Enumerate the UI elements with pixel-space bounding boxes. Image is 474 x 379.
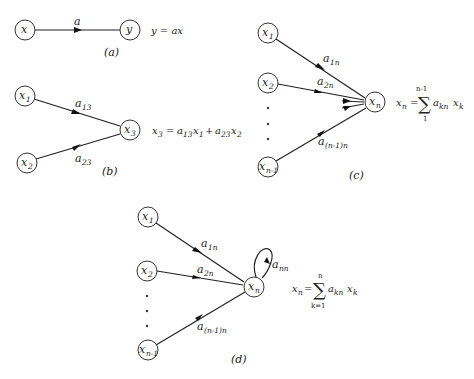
svg-text:13: 13 xyxy=(183,130,193,139)
edge-arrow-icon xyxy=(314,89,323,93)
svg-text:∑: ∑ xyxy=(418,93,431,114)
svg-text:n: n xyxy=(255,286,260,295)
svg-text:3: 3 xyxy=(131,129,136,138)
svg-text:a: a xyxy=(323,52,330,65)
svg-text:n: n xyxy=(376,101,381,110)
node-y: y xyxy=(120,20,140,40)
svg-text:(n-1)n: (n-1)n xyxy=(204,326,227,335)
node-xn-1: x n-1 xyxy=(258,157,278,177)
equation-c: x n = n-1 ∑ 1 a kn x k xyxy=(396,85,464,123)
svg-text:∑: ∑ xyxy=(313,279,326,300)
edge-label-a2n: a 2n xyxy=(197,263,214,278)
svg-text:n-1: n-1 xyxy=(416,85,427,93)
svg-text:a: a xyxy=(75,152,82,165)
node-x: x xyxy=(15,20,35,40)
caption-d: (d) xyxy=(231,353,247,366)
svg-text:x: x xyxy=(139,343,146,356)
equation-d: x n = n ∑ k=1 a kn x k xyxy=(292,272,358,310)
svg-text:13: 13 xyxy=(82,103,92,112)
svg-text:x: x xyxy=(142,210,149,223)
svg-text:2: 2 xyxy=(147,270,153,279)
edge-label-an1n: a (n-1)n xyxy=(197,320,227,335)
equation-b: x 3 = a 13 x 1 + a 23 x 2 xyxy=(152,125,242,139)
svg-text:2n: 2n xyxy=(203,269,214,278)
node-x3: x 3 xyxy=(120,120,140,140)
svg-text:k: k xyxy=(353,288,358,297)
node-xn: x n xyxy=(244,277,264,297)
ellipsis-dots xyxy=(146,295,148,327)
ellipsis-dots xyxy=(267,107,269,140)
svg-text:a: a xyxy=(75,97,82,110)
svg-text:1: 1 xyxy=(423,115,427,123)
node-x1: x 1 xyxy=(138,207,158,227)
svg-text:2: 2 xyxy=(27,162,33,171)
edge-label-a13: a 13 xyxy=(75,97,92,112)
svg-text:n-1: n-1 xyxy=(266,166,278,175)
svg-text:a: a xyxy=(197,263,204,276)
svg-text:1: 1 xyxy=(199,130,204,139)
svg-text:=: = xyxy=(304,283,312,294)
svg-text:1: 1 xyxy=(149,216,154,225)
node-xn: x n xyxy=(365,92,385,112)
svg-text:n: n xyxy=(402,102,407,111)
signal-flow-figure: a x y y = ax (a) a 13 a 23 x 1 xyxy=(0,0,474,379)
svg-text:3: 3 xyxy=(158,130,163,139)
edge-label-ann: a nn xyxy=(272,258,289,273)
node-x2: x 2 xyxy=(258,73,278,93)
svg-text:a: a xyxy=(272,258,279,271)
edge-label-a: a xyxy=(74,15,81,28)
svg-text:n: n xyxy=(298,288,303,297)
svg-text:x: x xyxy=(21,156,28,169)
edge-label-a2n: a 2n xyxy=(317,75,334,90)
svg-text:23: 23 xyxy=(81,158,92,167)
svg-text:2n: 2n xyxy=(323,81,334,90)
svg-text:x: x xyxy=(262,26,269,39)
edge-label-an1n: a (n-1)n xyxy=(318,135,348,150)
svg-text:n-1: n-1 xyxy=(146,349,158,358)
edge-arrow-icon xyxy=(343,98,351,104)
node-x1: x 1 xyxy=(258,23,278,43)
node-x1: x 1 xyxy=(15,86,35,106)
svg-text:a: a xyxy=(197,320,204,333)
panel-a: a x y y = ax (a) xyxy=(15,15,183,59)
svg-text:k=1: k=1 xyxy=(311,302,326,310)
edge-arrow-icon xyxy=(72,144,81,151)
svg-text:kn: kn xyxy=(334,288,344,297)
svg-text:(n-1)n: (n-1)n xyxy=(325,141,348,150)
caption-a: (a) xyxy=(104,46,119,59)
svg-text:kn: kn xyxy=(439,102,449,111)
svg-text:nn: nn xyxy=(279,264,289,273)
caption-b: (b) xyxy=(102,165,118,178)
svg-text:1: 1 xyxy=(26,95,31,104)
svg-text:=: = xyxy=(166,125,174,136)
svg-text:23: 23 xyxy=(220,130,231,139)
svg-text:1: 1 xyxy=(269,32,274,41)
svg-text:y: y xyxy=(125,23,133,36)
svg-text:1n: 1n xyxy=(208,243,218,252)
svg-text:x: x xyxy=(124,123,131,136)
edge-label-a23: a 23 xyxy=(75,152,92,167)
edge-arrow-icon xyxy=(264,257,270,264)
svg-text:a: a xyxy=(317,75,324,88)
caption-c: (c) xyxy=(349,169,364,182)
panel-b: a 13 a 23 x 1 x 2 x 3 x 3 = a 13 x xyxy=(15,86,242,178)
svg-text:x: x xyxy=(262,76,269,89)
svg-text:x: x xyxy=(19,89,26,102)
svg-text:x: x xyxy=(248,280,255,293)
svg-text:+: + xyxy=(205,125,213,136)
panel-d: a 1n a 2n a (n-1)n a nn x 1 x 2 xyxy=(137,207,358,366)
node-x2: x 2 xyxy=(137,261,157,281)
svg-text:a: a xyxy=(201,237,208,250)
svg-text:x: x xyxy=(141,264,148,277)
edge-arrow-icon xyxy=(343,106,351,111)
svg-text:k: k xyxy=(459,102,464,111)
edge-label-a1n: a 1n xyxy=(201,237,218,252)
svg-text:1n: 1n xyxy=(330,58,340,67)
equation-a: y = ax xyxy=(150,25,183,36)
svg-text:x: x xyxy=(21,23,28,36)
svg-text:x: x xyxy=(259,160,266,173)
svg-text:2: 2 xyxy=(268,82,274,91)
panel-c: a 1n a 2n a (n-1)n x 1 x 2 x n- xyxy=(258,23,464,182)
node-xn-1: x n-1 xyxy=(138,340,158,360)
svg-text:a: a xyxy=(318,135,325,148)
